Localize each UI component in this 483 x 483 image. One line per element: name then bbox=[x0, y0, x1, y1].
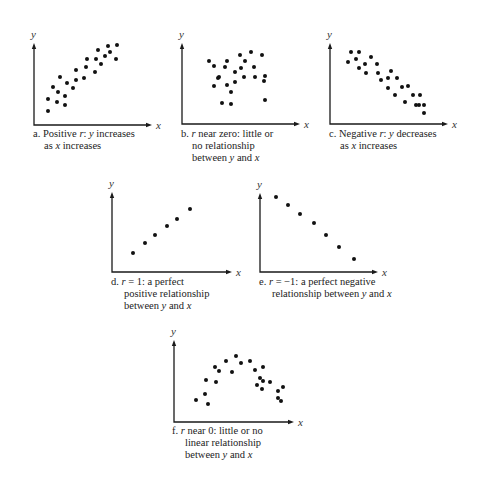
data-point bbox=[422, 103, 426, 107]
y-axis-arrow-icon bbox=[32, 43, 36, 49]
data-point bbox=[386, 76, 390, 80]
data-point bbox=[204, 378, 208, 382]
data-point bbox=[74, 78, 78, 82]
data-point bbox=[224, 359, 228, 363]
data-point bbox=[261, 365, 265, 369]
data-point bbox=[242, 75, 246, 79]
data-point bbox=[395, 76, 399, 80]
data-point bbox=[56, 90, 60, 94]
data-point bbox=[229, 102, 233, 106]
data-point bbox=[212, 84, 216, 88]
x-axis-arrow-icon bbox=[226, 270, 232, 274]
y-axis-arrow-icon bbox=[180, 43, 184, 49]
data-point bbox=[74, 68, 78, 72]
scatter-plot-a: yx bbox=[30, 28, 161, 131]
data-point bbox=[364, 71, 368, 75]
data-point bbox=[99, 62, 103, 66]
scatter-plot-e: yx bbox=[256, 178, 387, 278]
axes bbox=[182, 47, 296, 124]
y-axis-label: y bbox=[108, 177, 114, 189]
data-point bbox=[85, 57, 89, 61]
x-axis-label: x bbox=[235, 266, 241, 278]
data-point bbox=[94, 57, 98, 61]
data-point bbox=[274, 195, 278, 199]
data-point bbox=[286, 203, 290, 207]
axes bbox=[260, 197, 374, 272]
y-axis-arrow-icon bbox=[328, 43, 332, 49]
data-point bbox=[114, 57, 118, 61]
data-point bbox=[143, 241, 147, 245]
y-axis-label: y bbox=[178, 28, 184, 40]
data-point bbox=[260, 53, 264, 57]
y-axis-arrow-icon bbox=[110, 192, 114, 198]
data-point bbox=[346, 60, 350, 64]
data-point bbox=[400, 85, 404, 89]
data-point bbox=[214, 380, 218, 384]
x-axis-label: x bbox=[303, 118, 309, 130]
data-point bbox=[261, 379, 265, 383]
data-point bbox=[276, 396, 280, 400]
data-point bbox=[165, 224, 169, 228]
data-point bbox=[411, 93, 415, 97]
data-point bbox=[258, 376, 262, 380]
data-point bbox=[403, 100, 407, 104]
data-point bbox=[194, 398, 198, 402]
caption-f: f. r near 0: little or no linear relatio… bbox=[172, 425, 263, 461]
data-point bbox=[115, 43, 119, 47]
data-point bbox=[217, 75, 221, 79]
data-point bbox=[239, 66, 243, 70]
scatter-plot-f: yx bbox=[170, 325, 303, 428]
data-point bbox=[357, 50, 361, 54]
data-point bbox=[93, 70, 97, 74]
scatter-plot-grid: yxyxyxyxyxyx bbox=[0, 0, 483, 483]
y-axis-arrow-icon bbox=[172, 340, 176, 346]
data-point bbox=[108, 50, 112, 54]
data-point bbox=[203, 392, 207, 396]
data-point bbox=[249, 50, 253, 54]
data-point bbox=[417, 103, 421, 107]
y-axis-label: y bbox=[170, 325, 176, 337]
data-point bbox=[393, 93, 397, 97]
data-point bbox=[220, 101, 224, 105]
axes bbox=[34, 47, 148, 125]
data-point bbox=[63, 94, 67, 98]
caption-a: a. Positive r: y increases as x increase… bbox=[33, 128, 135, 152]
x-axis-arrow-icon bbox=[294, 122, 300, 126]
data-point bbox=[253, 75, 257, 79]
data-point bbox=[268, 380, 272, 384]
data-point bbox=[369, 55, 373, 59]
x-axis-arrow-icon bbox=[442, 122, 448, 126]
scatter-plot-d: yx bbox=[108, 177, 241, 278]
data-point bbox=[243, 59, 247, 63]
data-point bbox=[298, 212, 302, 216]
data-point bbox=[262, 79, 266, 83]
data-point bbox=[229, 90, 233, 94]
data-point bbox=[82, 76, 86, 80]
x-axis-arrow-icon bbox=[146, 123, 152, 127]
data-point bbox=[260, 387, 264, 391]
y-axis-label: y bbox=[256, 178, 262, 190]
data-point bbox=[233, 80, 237, 84]
data-point bbox=[65, 81, 69, 85]
data-point bbox=[375, 62, 379, 66]
data-point bbox=[153, 233, 157, 237]
scatter-plot-c: yx bbox=[326, 28, 457, 130]
data-point bbox=[106, 44, 110, 48]
scatter-plot-b: yx bbox=[178, 28, 309, 130]
data-point bbox=[263, 98, 267, 102]
caption-e: e. r = −1: a perfect negative relationsh… bbox=[259, 276, 392, 300]
data-point bbox=[71, 86, 75, 90]
data-point bbox=[238, 53, 242, 57]
x-axis-arrow-icon bbox=[372, 270, 378, 274]
data-point bbox=[58, 75, 62, 79]
data-point bbox=[253, 368, 257, 372]
x-axis-label: x bbox=[451, 118, 457, 130]
data-point bbox=[175, 217, 179, 221]
caption-c: c. Negative r: y decreases as x increase… bbox=[329, 128, 437, 152]
axes bbox=[112, 196, 228, 272]
data-point bbox=[418, 93, 422, 97]
y-axis-label: y bbox=[326, 28, 332, 40]
data-point bbox=[96, 48, 100, 52]
data-point bbox=[389, 69, 393, 73]
data-point bbox=[279, 399, 283, 403]
